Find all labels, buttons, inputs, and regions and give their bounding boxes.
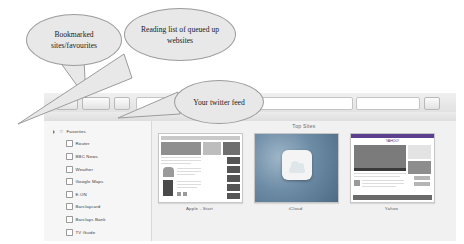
- sidebar-item-weather[interactable]: Weather: [44, 163, 151, 176]
- sidebar-item-label: Router: [76, 141, 90, 146]
- bookmark-icon: [66, 191, 73, 198]
- sidebar-item-label: Barclaycard: [76, 204, 101, 209]
- top-site-thumbnail[interactable]: YAHOO!: [350, 133, 435, 203]
- sidebar-item-google-maps[interactable]: Google Maps: [44, 175, 151, 188]
- sidebar-item-router[interactable]: Router: [44, 138, 151, 151]
- top-site-tile[interactable]: iCloud: [254, 133, 337, 241]
- top-site-thumbnail[interactable]: [254, 133, 339, 203]
- sidebar-item-barclaycard[interactable]: Barclaycard: [44, 201, 151, 214]
- bookmark-icon: [66, 166, 73, 173]
- top-site-label: Apple - Start: [158, 206, 241, 211]
- top-site-tile[interactable]: YAHOO! Yahoo: [350, 133, 433, 241]
- sidebar-item-eon[interactable]: E.ON: [44, 188, 151, 201]
- cloud-icon: [289, 165, 305, 173]
- bookmark-icon: [66, 203, 73, 210]
- sidebar-item-label: TV Guide: [76, 230, 96, 235]
- top-sites-panel: Top Sites: [152, 121, 456, 241]
- sidebar-item-label: Google Maps: [76, 179, 104, 184]
- top-sites-grid: Apple - Start iCloud YAHOO!: [158, 133, 452, 241]
- bookmark-icon: [66, 178, 73, 185]
- favorites-sidebar: ☆ Favorites Router BBC News Weather Goog…: [44, 121, 152, 241]
- sidebar-item-label: E.ON: [76, 192, 87, 197]
- downloads-icon[interactable]: [424, 97, 440, 110]
- annotation-bubble: Your twitter feed: [174, 80, 264, 124]
- top-site-label: iCloud: [254, 206, 337, 211]
- sidebar-item-label: Barclays Bank: [76, 217, 106, 222]
- sidebar-item-label: BBC News: [76, 154, 98, 159]
- top-site-tile[interactable]: Apple - Start: [158, 133, 241, 241]
- sidebar-item-label: Weather: [76, 167, 94, 172]
- bookmark-icon: [66, 140, 73, 147]
- annotation-callout-twitter: Your twitter feed: [174, 80, 264, 124]
- search-input[interactable]: [356, 97, 420, 110]
- sidebar-item-tv-guide[interactable]: TV Guide: [44, 226, 151, 239]
- sidebar-item-barclays-bank[interactable]: Barclays Bank: [44, 213, 151, 226]
- annotation-callout-reading: Reading list of queued up websites: [124, 8, 236, 61]
- bookmark-icon: [66, 216, 73, 223]
- top-site-thumbnail[interactable]: [158, 133, 243, 203]
- annotation-bubble: Reading list of queued up websites: [124, 8, 236, 61]
- bookmark-icon: [66, 229, 73, 236]
- top-site-label: Yahoo: [350, 206, 433, 211]
- sidebar-item-bbc-news[interactable]: BBC News: [44, 150, 151, 163]
- bookmark-icon: [66, 153, 73, 160]
